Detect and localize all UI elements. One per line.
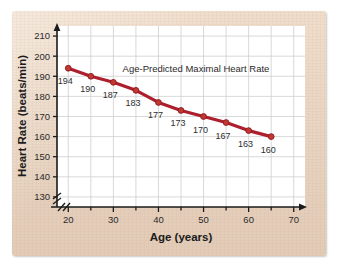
x-axis-title: Age (years) <box>150 231 213 243</box>
svg-text:160: 160 <box>34 131 50 142</box>
svg-text:190: 190 <box>34 71 50 82</box>
data-point-label: 163 <box>238 139 253 149</box>
data-point-label: 194 <box>58 76 73 86</box>
svg-text:130: 130 <box>34 191 50 202</box>
data-point <box>223 120 229 126</box>
svg-text:200: 200 <box>34 51 50 62</box>
data-point <box>156 100 162 106</box>
data-point-label: 160 <box>261 145 276 155</box>
data-point-label: 187 <box>103 90 118 100</box>
data-point-label: 170 <box>193 125 208 135</box>
data-point-label: 183 <box>125 98 140 108</box>
data-point-label: 173 <box>170 118 185 128</box>
data-point <box>65 65 71 71</box>
data-point-label: 177 <box>148 110 163 120</box>
svg-text:20: 20 <box>63 214 74 225</box>
svg-text:210: 210 <box>34 30 50 41</box>
data-point-label: 190 <box>80 84 95 94</box>
svg-text:50: 50 <box>198 214 209 225</box>
y-axis-title: Heart Rate (beats/min) <box>16 55 28 177</box>
svg-text:40: 40 <box>153 214 164 225</box>
y-axis-tick-labels: 130140150160170180190200210 <box>34 30 50 202</box>
svg-text:170: 170 <box>34 111 50 122</box>
data-point <box>268 134 274 140</box>
svg-text:30: 30 <box>108 214 119 225</box>
chart-canvas: 130140150160170180190200210 203040506070… <box>0 0 338 276</box>
data-point <box>246 128 252 134</box>
data-point <box>133 87 139 93</box>
svg-text:150: 150 <box>34 151 50 162</box>
data-point <box>201 114 207 120</box>
x-axis-tick-labels: 203040506070 <box>63 214 299 225</box>
data-point <box>178 108 184 114</box>
data-point <box>88 73 94 79</box>
chart-title: Age-Predicted Maximal Heart Rate <box>123 63 270 74</box>
svg-text:60: 60 <box>243 214 254 225</box>
figure-root: 130140150160170180190200210 203040506070… <box>0 0 338 276</box>
svg-text:70: 70 <box>288 214 299 225</box>
data-point <box>110 79 116 85</box>
data-point-label: 167 <box>216 131 231 141</box>
svg-text:180: 180 <box>34 91 50 102</box>
svg-text:140: 140 <box>34 171 50 182</box>
